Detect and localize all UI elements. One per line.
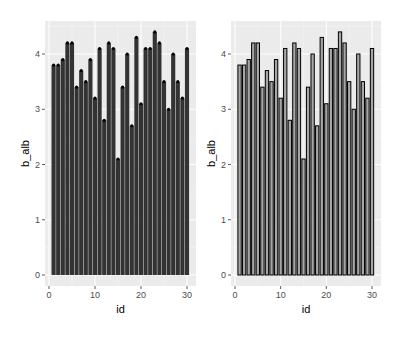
x-axis-title: id xyxy=(302,303,311,315)
y-axis-title: b_alb xyxy=(19,140,31,167)
y-tick-label: 4 xyxy=(221,49,226,59)
data-point xyxy=(149,47,152,50)
bar xyxy=(338,32,341,275)
y-tick-label: 4 xyxy=(35,49,40,59)
bar xyxy=(242,65,245,275)
bar xyxy=(247,60,250,275)
y-tick-label: 2 xyxy=(35,160,40,170)
bar xyxy=(180,98,184,275)
bar xyxy=(111,48,115,275)
bar xyxy=(148,48,152,275)
data-point xyxy=(135,36,138,39)
x-tick-label: 0 xyxy=(232,290,237,300)
data-point xyxy=(185,47,188,50)
bar xyxy=(176,82,180,275)
bar xyxy=(252,43,255,275)
data-point xyxy=(144,47,147,50)
bar xyxy=(88,60,92,275)
bar xyxy=(56,65,60,275)
data-point xyxy=(158,41,161,44)
bar xyxy=(139,104,143,275)
bar xyxy=(265,71,268,275)
left-bar-chart: 012340102030idb_alb xyxy=(19,21,196,315)
bar xyxy=(357,54,360,275)
data-point xyxy=(84,80,87,83)
data-point xyxy=(130,124,133,127)
bar xyxy=(125,54,129,275)
bar xyxy=(270,82,273,275)
x-tick-label: 10 xyxy=(276,290,286,300)
bar xyxy=(361,82,364,275)
bar xyxy=(171,54,175,275)
data-point xyxy=(93,97,96,100)
bar xyxy=(284,48,287,275)
data-point xyxy=(66,41,69,44)
bar xyxy=(366,98,369,275)
bar xyxy=(311,54,314,275)
x-tick-label: 30 xyxy=(367,290,377,300)
bar xyxy=(79,71,83,275)
bar xyxy=(102,120,106,275)
bar xyxy=(256,43,259,275)
data-point xyxy=(98,47,101,50)
bar xyxy=(130,126,134,275)
bar xyxy=(352,109,355,275)
bar xyxy=(134,37,138,275)
bar xyxy=(261,87,264,275)
y-tick-label: 3 xyxy=(35,104,40,114)
x-tick-label: 10 xyxy=(90,290,100,300)
bar xyxy=(343,43,346,275)
data-point xyxy=(103,119,106,122)
bar xyxy=(288,120,291,275)
bar xyxy=(297,48,300,275)
data-point xyxy=(167,108,170,111)
data-point xyxy=(70,41,73,44)
data-point xyxy=(126,52,129,55)
data-point xyxy=(112,47,115,50)
bar xyxy=(293,43,296,275)
bar xyxy=(116,159,120,275)
bar xyxy=(157,43,161,275)
bar xyxy=(320,37,323,275)
bar xyxy=(279,98,282,275)
bar xyxy=(167,109,171,275)
bar xyxy=(348,82,351,275)
bar xyxy=(316,126,319,275)
bar xyxy=(84,82,88,275)
data-point xyxy=(181,97,184,100)
data-point xyxy=(176,80,179,83)
y-tick-label: 3 xyxy=(221,104,226,114)
right-bar-chart: 012340102030idb_alb xyxy=(205,21,381,315)
y-tick-label: 1 xyxy=(35,215,40,225)
bar xyxy=(93,98,97,275)
bar xyxy=(329,48,332,275)
bar xyxy=(52,65,56,275)
data-point xyxy=(107,41,110,44)
bar xyxy=(306,87,309,275)
data-point xyxy=(153,30,156,33)
bar xyxy=(121,87,125,275)
chart-canvas: 012340102030idb_alb 012340102030idb_alb xyxy=(0,0,397,340)
bar xyxy=(325,104,328,275)
bar xyxy=(144,48,148,275)
bar xyxy=(334,48,337,275)
bar xyxy=(75,87,79,275)
y-tick-label: 0 xyxy=(221,270,226,280)
x-axis-title: id xyxy=(116,303,125,315)
bar xyxy=(70,43,74,275)
bar xyxy=(370,48,373,275)
data-point xyxy=(52,63,55,66)
data-point xyxy=(162,80,165,83)
data-point xyxy=(121,86,124,89)
x-tick-label: 0 xyxy=(46,290,51,300)
x-tick-label: 20 xyxy=(321,290,331,300)
bar xyxy=(162,82,166,275)
y-tick-label: 2 xyxy=(221,160,226,170)
x-tick-label: 20 xyxy=(136,290,146,300)
data-point xyxy=(172,52,175,55)
data-point xyxy=(57,63,60,66)
y-tick-label: 0 xyxy=(35,270,40,280)
data-point xyxy=(116,157,119,160)
bar xyxy=(238,65,241,275)
data-point xyxy=(139,102,142,105)
